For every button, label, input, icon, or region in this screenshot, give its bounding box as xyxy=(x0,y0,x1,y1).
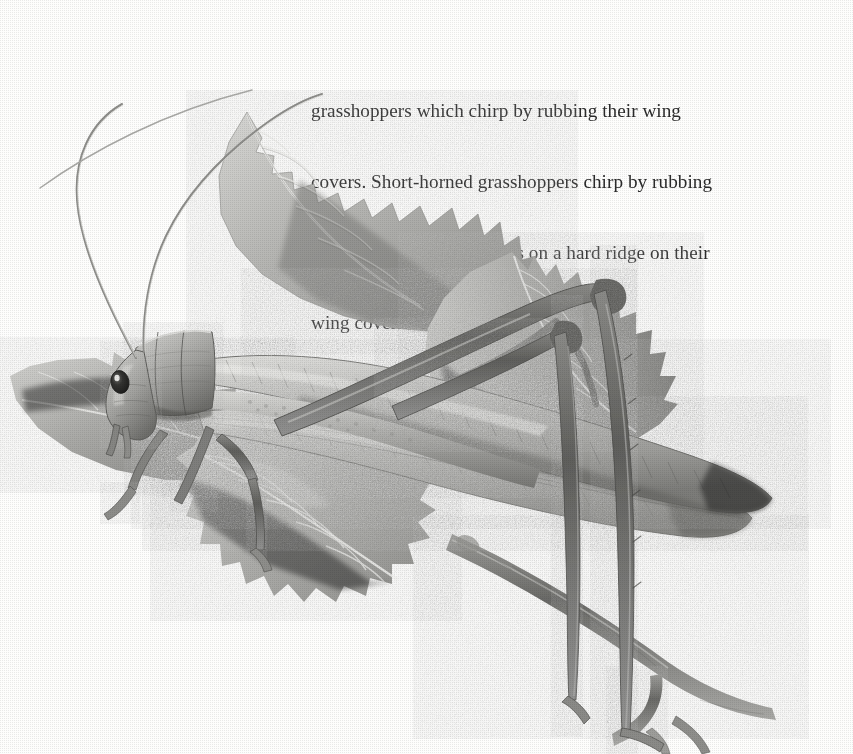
caption-line-clipped xyxy=(311,28,847,52)
grasshopper-illustration xyxy=(0,60,853,754)
branch xyxy=(446,532,776,754)
antenna-left xyxy=(77,104,136,358)
page-root: grasshoppers which chirp by rubbing thei… xyxy=(0,0,853,754)
